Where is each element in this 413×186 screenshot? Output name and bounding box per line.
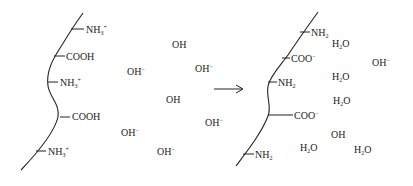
hydroxide-ion: OH [172,40,186,50]
reaction-diagram: NH3+ COOH NH3+ COOH NH3+ OH OH− OH− OH O… [0,0,413,186]
right-group-nh2: NH2 [278,78,295,88]
right-group-coo-minus: COO− [291,54,316,64]
water-molecule: H2O [333,96,350,106]
water-molecule: H2O [300,143,317,153]
left-group-cooh: COOH [66,52,94,62]
right-group-nh2: NH2 [255,150,272,160]
water-molecule: H2O [354,145,371,155]
right-group-coo-minus: COO− [294,111,319,121]
hydroxide-ion: OH− [195,64,213,74]
water-molecule: H2O [332,39,349,49]
left-group-nh3-plus: NH3+ [86,25,107,35]
hydroxide-ion: OH [331,130,345,140]
hydroxide-ion: OH [166,95,180,105]
left-group-cooh: COOH [72,112,100,122]
water-molecule: H2O [332,72,349,82]
left-group-nh3-plus: NH3+ [48,147,69,157]
left-group-nh3-plus: NH3+ [60,78,81,88]
right-group-nh2: NH2 [311,28,328,38]
hydroxide-ion: OH− [157,147,175,157]
hydroxide-ion: OH− [121,128,139,138]
hydroxide-ion: OH− [205,118,223,128]
hydroxide-ion: OH− [372,58,390,68]
chain-lines [0,0,413,186]
hydroxide-ion: OH− [127,67,145,77]
